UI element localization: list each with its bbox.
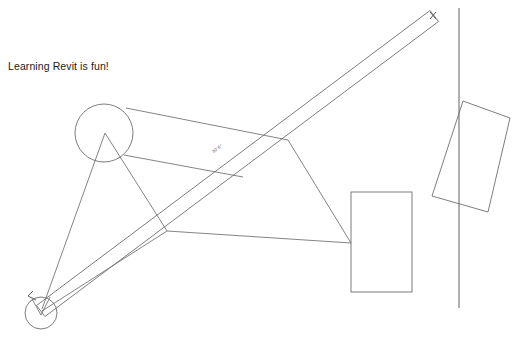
wall-end-tick-icon: [430, 12, 436, 19]
line-lower-vertex-to-rect-left[interactable]: [167, 231, 351, 243]
line-small-circle-to-lower-vertex[interactable]: [42, 231, 167, 311]
drawing-canvas[interactable]: Learning Revit is fun! 30' 6": [0, 0, 525, 346]
rotated-rectangle[interactable]: [432, 101, 510, 212]
line-small-circle-wedge-2[interactable]: [32, 299, 41, 315]
model-lines-group[interactable]: [32, 108, 351, 315]
line-apex-to-lower-vertex[interactable]: [105, 133, 167, 231]
diagonal-wall-band[interactable]: [37, 11, 439, 317]
line-circle-right-to-dimension[interactable]: [124, 155, 243, 177]
text-note-learning-revit[interactable]: Learning Revit is fun!: [8, 60, 109, 72]
line-apex-to-small-circle[interactable]: [42, 133, 105, 309]
line-vertex-to-rect-left[interactable]: [288, 140, 351, 243]
drawing-geometry-layer[interactable]: [0, 0, 525, 346]
upright-rectangle[interactable]: [351, 192, 412, 292]
line-circle-top-to-vertex[interactable]: [126, 108, 288, 140]
large-circle[interactable]: [75, 104, 133, 162]
